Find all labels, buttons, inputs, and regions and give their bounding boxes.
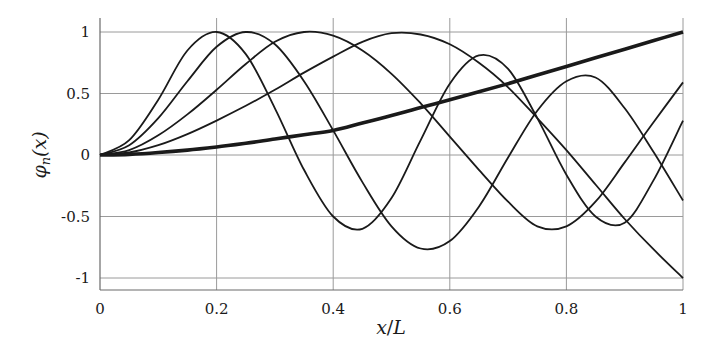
x-tick-label: 0.4: [321, 300, 345, 318]
y-tick-label: 0.5: [66, 85, 90, 103]
x-tick-label: 0: [95, 300, 105, 318]
x-axis-label: x/L: [376, 316, 406, 338]
y-tick-label: 1: [80, 23, 90, 41]
y-tick-label: -1: [75, 269, 90, 287]
x-tick-label: 0.2: [205, 300, 229, 318]
mode-shape-chart: 00.20.40.60.81 10.50-0.5-1 x/L φn(x): [0, 0, 718, 363]
mode-5-curve: [100, 32, 683, 230]
x-tick-label: 0.6: [438, 300, 462, 318]
x-tick-label: 0.8: [554, 300, 578, 318]
y-axis-label: φn(x): [28, 131, 53, 178]
y-tick-label: 0: [80, 146, 90, 164]
y-tick-label: -0.5: [61, 208, 90, 226]
y-tick-labels: 10.50-0.5-1: [61, 23, 90, 287]
x-tick-label: 1: [678, 300, 688, 318]
